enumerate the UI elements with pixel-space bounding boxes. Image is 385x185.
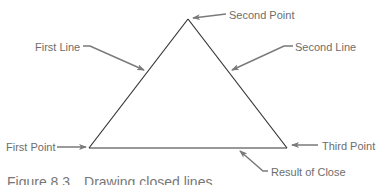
label-first-point: First Point: [6, 141, 56, 153]
label-second-line: Second Line: [295, 41, 356, 53]
second-line: [188, 19, 287, 148]
arrow-result-of-close: [240, 151, 268, 171]
arrow-second-line: [232, 46, 293, 70]
arrow-second-point: [193, 14, 226, 18]
arrow-first-line: [83, 46, 144, 70]
label-result-of-close: Result of Close: [271, 166, 346, 178]
label-first-line: First Line: [35, 41, 80, 53]
label-second-point: Second Point: [229, 9, 294, 21]
label-third-point: Third Point: [322, 140, 375, 152]
caption-label: Figure 8.3: [7, 174, 70, 185]
first-line: [89, 19, 188, 148]
figure-closed-lines: Second Point First Line Second Line Firs…: [0, 0, 385, 185]
figure-caption: Figure 8.3Drawing closed lines: [7, 174, 212, 185]
triangle-diagram: [0, 0, 385, 185]
caption-text: Drawing closed lines: [84, 174, 212, 185]
